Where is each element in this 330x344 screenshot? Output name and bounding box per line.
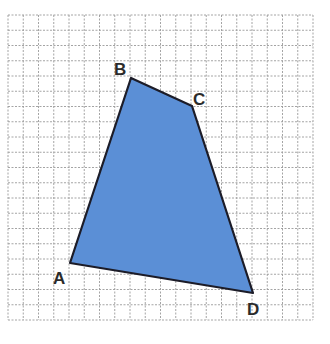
grid-diagram: A B C D xyxy=(0,0,330,344)
vertex-label-a: A xyxy=(53,269,65,288)
vertex-label-b: B xyxy=(114,60,126,79)
quadrilateral-abcd xyxy=(70,78,253,293)
vertex-label-c: C xyxy=(193,90,205,109)
vertex-label-d: D xyxy=(247,300,259,319)
